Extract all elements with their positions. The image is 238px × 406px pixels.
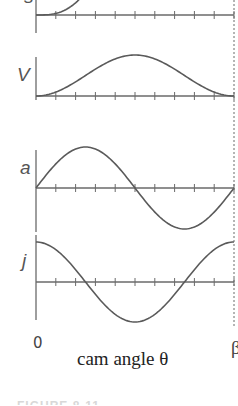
v-axis-label: V bbox=[17, 64, 30, 86]
x-end-label: β bbox=[231, 337, 238, 359]
figure-caption: FIGURE 8-11 bbox=[17, 399, 100, 405]
v-curve bbox=[36, 55, 234, 96]
x-start-label: 0 bbox=[33, 334, 43, 352]
a-axis-label: a bbox=[20, 157, 31, 179]
j-axis-label: j bbox=[22, 250, 26, 272]
x-axis-label: cam angle θ bbox=[77, 348, 168, 370]
s-axis-label: s bbox=[24, 0, 34, 8]
